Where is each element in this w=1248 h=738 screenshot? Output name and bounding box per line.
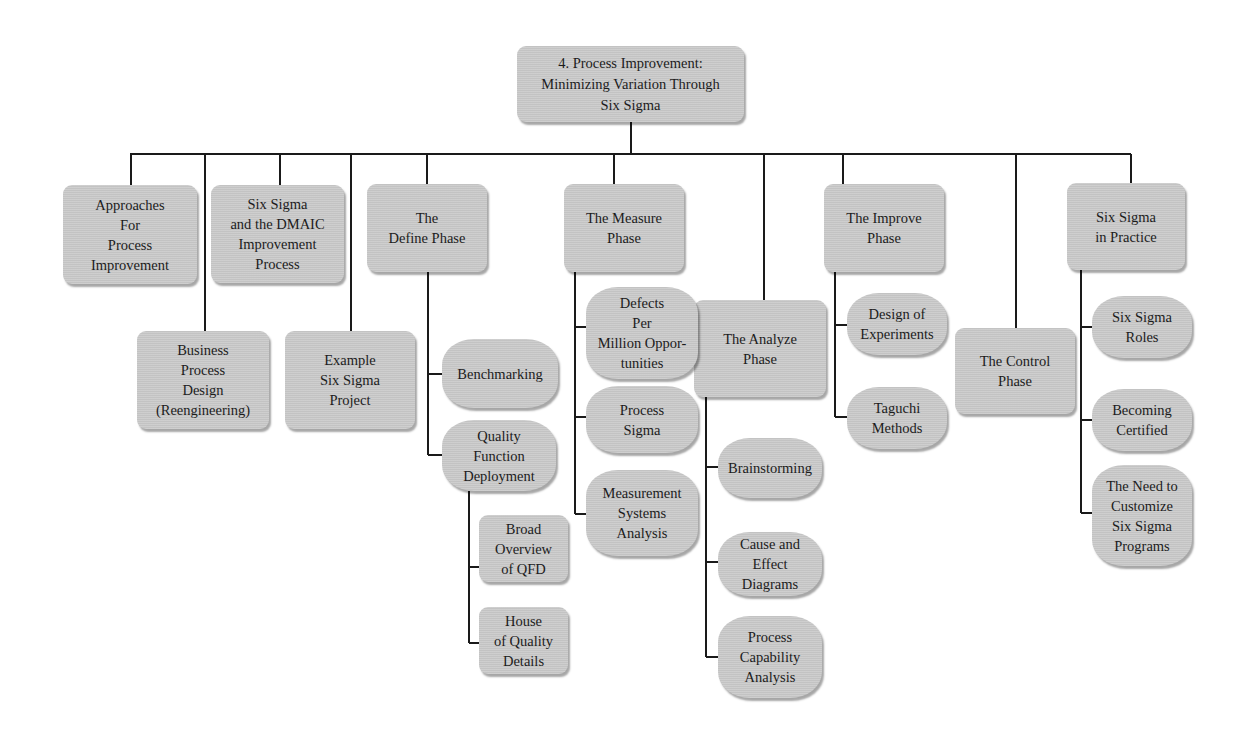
node-design-of-experiments: Design of Experiments bbox=[847, 293, 947, 355]
node-taguchi-methods: Taguchi Methods bbox=[847, 387, 947, 449]
node-house-of-quality-details: House of Quality Details bbox=[479, 607, 568, 674]
six-sigma-topic-tree: 4. Process Improvement: Minimizing Varia… bbox=[0, 0, 1248, 738]
node-process-capability-analysis: Process Capability Analysis bbox=[718, 616, 822, 698]
node-improve-phase: The Improve Phase bbox=[824, 184, 944, 272]
node-measurement-systems-analysis: Measurement Systems Analysis bbox=[586, 470, 698, 556]
node-defects-per-million-opportunities: Defects Per Million Oppor- tunities bbox=[586, 287, 698, 379]
root-node: 4. Process Improvement: Minimizing Varia… bbox=[517, 46, 744, 122]
node-process-sigma: Process Sigma bbox=[586, 386, 698, 453]
node-becoming-certified: Becoming Certified bbox=[1092, 389, 1192, 451]
node-analyze-phase: The Analyze Phase bbox=[694, 300, 826, 397]
node-example-six-sigma-project: Example Six Sigma Project bbox=[285, 331, 415, 429]
node-six-sigma-roles: Six Sigma Roles bbox=[1092, 296, 1192, 358]
node-need-to-customize-programs: The Need to Customize Six Sigma Programs bbox=[1092, 465, 1192, 566]
node-quality-function-deployment: Quality Function Deployment bbox=[442, 420, 556, 491]
node-brainstorming: Brainstorming bbox=[718, 438, 822, 498]
node-approaches-for-process-improvement: Approaches For Process Improvement bbox=[63, 185, 197, 284]
node-business-process-design: Business Process Design (Reengineering) bbox=[137, 331, 269, 429]
node-six-sigma-in-practice: Six Sigma in Practice bbox=[1067, 183, 1185, 270]
node-broad-overview-of-qfd: Broad Overview of QFD bbox=[479, 515, 568, 582]
node-six-sigma-dmaic: Six Sigma and the DMAIC Improvement Proc… bbox=[211, 185, 344, 283]
node-cause-and-effect-diagrams: Cause and Effect Diagrams bbox=[718, 532, 822, 596]
node-measure-phase: The Measure Phase bbox=[564, 184, 684, 272]
node-benchmarking: Benchmarking bbox=[442, 339, 558, 408]
node-control-phase: The Control Phase bbox=[955, 328, 1075, 414]
node-define-phase: The Define Phase bbox=[367, 184, 487, 272]
